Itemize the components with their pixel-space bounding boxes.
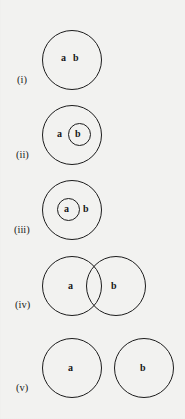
set-label-iv-0: a xyxy=(68,281,73,291)
row-numeral-iv: (iv) xyxy=(15,299,30,310)
set-relationship-diagram: (i)ab(ii)ab(iii)ab(iv)ab(v)ab xyxy=(0,0,185,419)
set-label-ii-1: b xyxy=(75,129,81,139)
row-numeral-iii: (iii) xyxy=(14,224,30,235)
row-numeral-v: (v) xyxy=(16,382,28,393)
set-label-i-0: a xyxy=(61,53,66,63)
row-numeral-i: (i) xyxy=(17,74,27,85)
set-label-iv-1: b xyxy=(111,281,117,291)
set-label-iii-0: a xyxy=(64,204,69,214)
row-numeral-ii: (ii) xyxy=(16,149,29,160)
set-label-iii-1: b xyxy=(83,204,89,214)
set-label-i-1: b xyxy=(73,53,79,63)
set-label-ii-0: a xyxy=(57,129,62,139)
set-label-v-1: b xyxy=(140,363,146,373)
set-label-v-0: a xyxy=(68,363,73,373)
i-outer-circle xyxy=(42,30,102,90)
